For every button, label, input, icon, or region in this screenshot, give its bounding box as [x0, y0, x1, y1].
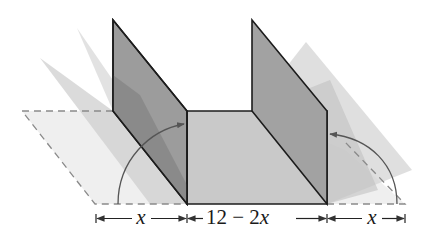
dim-middle-number: 12 − 2 — [206, 205, 260, 229]
dim-left-label: x — [135, 205, 146, 229]
dimension-right-x: x — [328, 205, 405, 229]
box-folding-diagram: x 12 − 2x x — [0, 0, 435, 243]
dim-middle-label: 12 − 2x — [206, 205, 270, 229]
dim-middle-variable: x — [259, 205, 270, 229]
dim-right-label: x — [366, 205, 377, 229]
dimension-middle: 12 − 2x — [188, 205, 327, 229]
dimension-left-x: x — [96, 205, 187, 229]
